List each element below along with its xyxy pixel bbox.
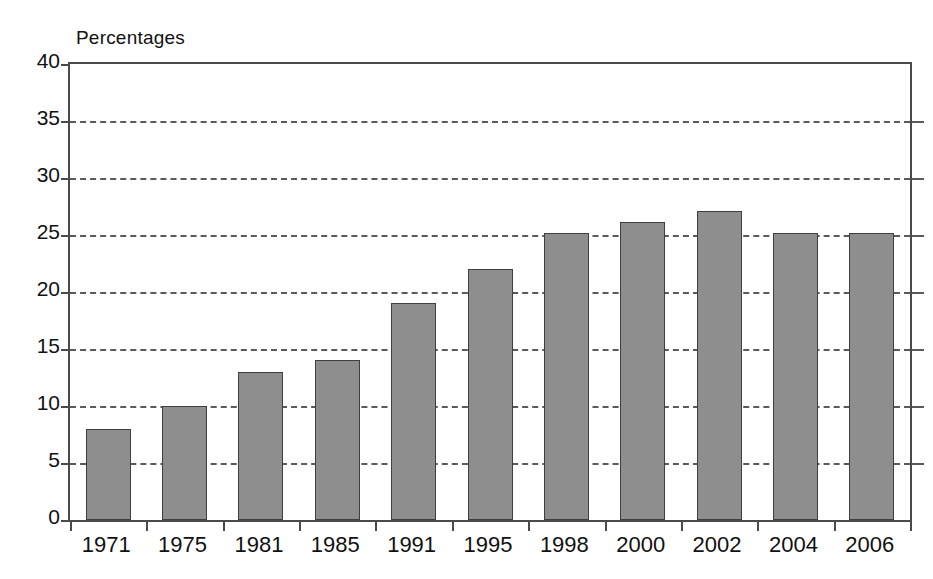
chart-title: Percentages: [76, 27, 185, 49]
gridline-stub: [912, 349, 924, 351]
bar: [849, 233, 894, 520]
gridline-stub: [912, 235, 924, 237]
bar: [86, 429, 131, 520]
x-axis-tick-label: 1981: [234, 532, 283, 558]
x-axis: 1971197519811985199119951998200020022004…: [68, 532, 908, 568]
gridline-stub: [912, 178, 924, 180]
gridline: [70, 178, 910, 180]
x-axis-tick: [223, 520, 225, 531]
y-axis-tick: [61, 121, 70, 123]
gridline-stub: [912, 463, 924, 465]
x-axis-tick-label: 2006: [845, 532, 894, 558]
x-axis-tick: [681, 520, 683, 531]
y-axis-tick: [61, 406, 70, 408]
x-axis-tick-label: 2000: [616, 532, 665, 558]
x-axis-tick-label: 1971: [82, 532, 131, 558]
y-axis-tick-label: 15: [16, 334, 60, 358]
y-axis: 0510152025303540: [8, 62, 60, 518]
y-axis-tick: [61, 520, 70, 522]
y-axis-tick: [61, 349, 70, 351]
x-axis-tick: [375, 520, 377, 531]
bar: [238, 372, 283, 520]
x-axis-tick-label: 2002: [693, 532, 742, 558]
y-axis-tick: [61, 463, 70, 465]
y-axis-tick-label: 20: [16, 277, 60, 301]
x-axis-tick-label: 1991: [387, 532, 436, 558]
y-axis-tick-label: 30: [16, 163, 60, 187]
x-axis-tick: [834, 520, 836, 531]
bar: [162, 406, 207, 520]
y-axis-tick-label: 35: [16, 106, 60, 130]
x-axis-tick-label: 1998: [540, 532, 589, 558]
y-axis-tick: [61, 178, 70, 180]
bar: [315, 360, 360, 520]
y-axis-tick-label: 25: [16, 220, 60, 244]
bar: [391, 303, 436, 520]
bar: [697, 211, 742, 520]
bar-chart: Percentages 0510152025303540 19711975198…: [0, 0, 933, 579]
x-axis-tick-label: 1985: [311, 532, 360, 558]
x-axis-tick-label: 1995: [464, 532, 513, 558]
x-axis-tick: [70, 520, 72, 531]
bar: [773, 233, 818, 520]
y-axis-tick: [61, 292, 70, 294]
bar: [468, 269, 513, 520]
y-axis-tick: [61, 64, 70, 66]
x-axis-tick: [452, 520, 454, 531]
x-axis-tick: [528, 520, 530, 531]
x-axis-tick: [910, 520, 912, 531]
bar: [620, 222, 665, 520]
y-axis-tick-label: 0: [16, 505, 60, 529]
y-axis-tick: [61, 235, 70, 237]
gridline-stub: [912, 121, 924, 123]
gridline-stub: [912, 406, 924, 408]
x-axis-tick: [299, 520, 301, 531]
x-axis-tick-label: 2004: [769, 532, 818, 558]
x-axis-tick: [605, 520, 607, 531]
x-axis-tick: [146, 520, 148, 531]
gridline: [70, 121, 910, 123]
y-axis-tick-label: 40: [16, 49, 60, 73]
x-axis-tick: [757, 520, 759, 531]
y-axis-tick-label: 5: [16, 448, 60, 472]
bar: [544, 233, 589, 520]
gridline-stub: [912, 292, 924, 294]
plot-area: [68, 62, 912, 522]
x-axis-tick-label: 1975: [158, 532, 207, 558]
y-axis-tick-label: 10: [16, 391, 60, 415]
